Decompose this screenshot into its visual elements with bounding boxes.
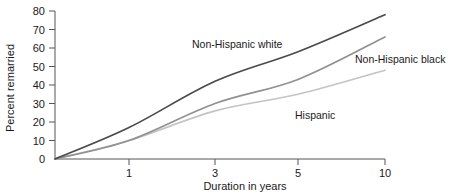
y-tick-label-30: 30 [33, 98, 45, 110]
y-tick-label-50: 50 [33, 61, 45, 73]
series-label-non-hispanic-white: Non-Hispanic white [192, 38, 283, 50]
y-axis-ticks [49, 11, 55, 141]
y-tick-label-0: 0 [39, 153, 45, 165]
x-axis-title: Duration in years [203, 180, 287, 192]
y-tick-label-70: 70 [33, 24, 45, 36]
y-tick-label-20: 20 [33, 116, 45, 128]
y-axis-tick-labels: 80 70 60 50 40 30 20 10 0 [33, 5, 45, 165]
data-series-group [55, 15, 385, 159]
chart-plot-area: 80 70 60 50 40 30 20 10 0 1 3 5 10 Perce… [0, 0, 456, 194]
series-label-non-hispanic-black: Non-Hispanic black [355, 53, 446, 65]
x-tick-label-5: 5 [295, 167, 301, 179]
series-line-non-hispanic-black [55, 37, 385, 159]
y-tick-label-80: 80 [33, 5, 45, 17]
x-axis-tick-labels: 1 3 5 10 [126, 167, 391, 179]
x-tick-label-3: 3 [212, 167, 218, 179]
chart-container: 80 70 60 50 40 30 20 10 0 1 3 5 10 Perce… [0, 0, 456, 194]
y-axis-title: Percent remarried [4, 44, 16, 132]
x-axis-ticks [129, 159, 385, 165]
y-tick-label-60: 60 [33, 42, 45, 54]
series-line-hispanic [55, 70, 385, 159]
series-annotations: Non-Hispanic white Non-Hispanic black Hi… [192, 38, 446, 121]
y-tick-label-10: 10 [33, 135, 45, 147]
series-line-non-hispanic-white [55, 15, 385, 159]
series-label-hispanic: Hispanic [295, 109, 335, 121]
y-tick-label-40: 40 [33, 79, 45, 91]
x-tick-label-1: 1 [126, 167, 132, 179]
x-tick-label-10: 10 [379, 167, 391, 179]
